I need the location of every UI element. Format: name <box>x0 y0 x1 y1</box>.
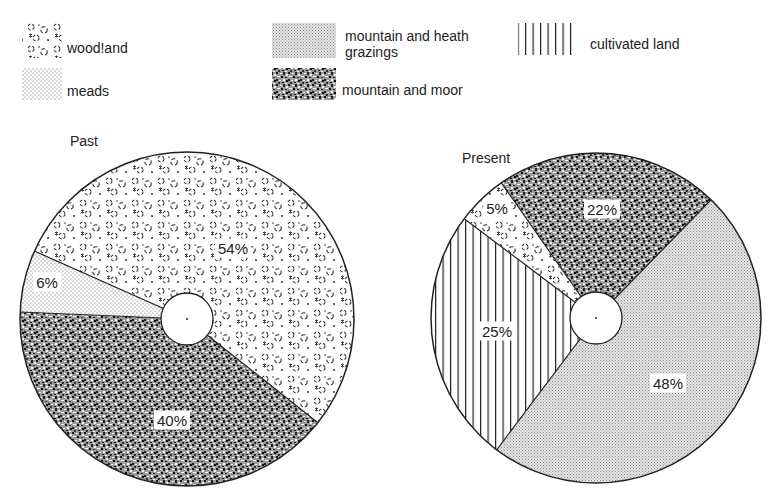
past-pie-title: Past <box>70 133 98 149</box>
legend-label-woodland: wood!and <box>67 40 128 56</box>
legend-swatch-meads <box>22 68 62 100</box>
legend-swatch-grazings <box>272 23 336 58</box>
pie-past <box>20 152 354 486</box>
legend-label-cultivated: cultivated land <box>590 36 680 52</box>
present-grazings-pct: 48% <box>650 374 686 393</box>
present-woodland-pct: 5% <box>483 199 511 218</box>
legend-label-moor: mountain and moor <box>342 82 463 98</box>
legend-label-grazings: mountain and heath grazings <box>345 28 469 60</box>
past-moor-pct: 40% <box>154 411 190 430</box>
present-moor-pct: 22% <box>584 200 620 219</box>
land-use-pie-charts <box>0 0 772 502</box>
pies <box>20 152 761 486</box>
past-woodland-pct: 54% <box>215 239 251 258</box>
legend-label-meads: meads <box>67 83 109 99</box>
present-pie-title: Present <box>462 150 510 166</box>
past-meads-pct: 6% <box>33 273 61 292</box>
legend-swatch-cultivated <box>518 23 574 55</box>
legend-swatch-moor <box>272 68 336 100</box>
present-cultivated-pct: 25% <box>479 322 515 341</box>
legend-swatch-woodland <box>22 23 62 58</box>
